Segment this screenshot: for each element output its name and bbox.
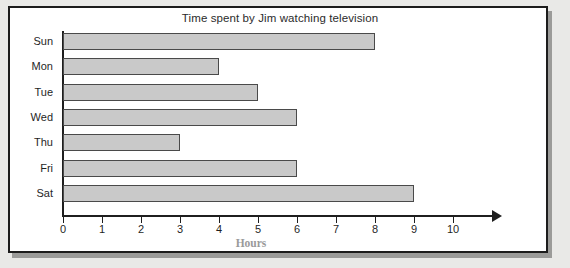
bar-row: Wed bbox=[63, 109, 297, 126]
y-axis-tick-label: Tue bbox=[0, 86, 62, 98]
bar bbox=[63, 160, 297, 177]
screenshot-root: Time spent by Jim watching television Su… bbox=[0, 0, 570, 268]
y-axis-tick-label: Fri bbox=[0, 162, 62, 174]
x-axis-tick-label: 1 bbox=[90, 223, 114, 235]
bar-row: Thu bbox=[63, 134, 180, 151]
x-axis-tick-label: 5 bbox=[246, 223, 270, 235]
y-axis-tick-label: Sat bbox=[0, 187, 62, 199]
x-axis-tick-label: 0 bbox=[51, 223, 75, 235]
x-axis-tick-label: 9 bbox=[402, 223, 426, 235]
bar-chart: Time spent by Jim watching television Su… bbox=[0, 0, 570, 268]
y-axis-tick-label: Thu bbox=[0, 136, 62, 148]
x-axis-tick-label: 2 bbox=[129, 223, 153, 235]
x-axis-tick-label: 4 bbox=[207, 223, 231, 235]
x-axis-tick-label: 3 bbox=[168, 223, 192, 235]
bar-row: Mon bbox=[63, 58, 219, 75]
bar-row: Sat bbox=[63, 185, 414, 202]
x-axis-tick-label: 10 bbox=[441, 223, 465, 235]
bar-row: Sun bbox=[63, 33, 375, 50]
bar-row: Tue bbox=[63, 84, 258, 101]
bar bbox=[63, 33, 375, 50]
y-axis-tick-label: Mon bbox=[0, 60, 62, 72]
x-axis-title: Hours bbox=[62, 237, 440, 249]
bar bbox=[63, 134, 180, 151]
bar bbox=[63, 58, 219, 75]
bar bbox=[63, 109, 297, 126]
x-axis-tick-label: 6 bbox=[285, 223, 309, 235]
x-axis-tick-label: 7 bbox=[324, 223, 348, 235]
y-axis-tick-label: Sun bbox=[0, 35, 62, 47]
bar-row: Fri bbox=[63, 160, 297, 177]
bar bbox=[63, 84, 258, 101]
x-axis-tick-label: 8 bbox=[363, 223, 387, 235]
bar bbox=[63, 185, 414, 202]
y-axis-tick-label: Wed bbox=[0, 111, 62, 123]
